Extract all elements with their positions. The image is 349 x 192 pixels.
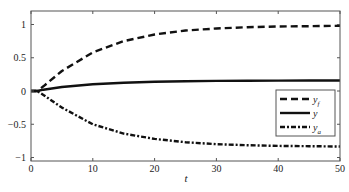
x-tick-label: 40 bbox=[273, 163, 283, 174]
x-tick-label: 20 bbox=[150, 163, 160, 174]
line-chart: 01020304050 −1−0.500.51 t yfyya bbox=[0, 0, 349, 192]
legend: yfyya bbox=[276, 90, 335, 136]
x-axis-label: t bbox=[184, 172, 188, 184]
y-tick-label: 0.5 bbox=[14, 52, 27, 63]
legend-label-y: y bbox=[312, 108, 318, 119]
y-tick-label: −1 bbox=[15, 152, 26, 163]
x-tick-label: 30 bbox=[211, 163, 221, 174]
y-tick-label: 1 bbox=[21, 19, 26, 30]
y-tick-label: 0 bbox=[21, 86, 26, 97]
x-tick-label: 10 bbox=[88, 163, 98, 174]
x-tick-label: 50 bbox=[335, 163, 345, 174]
series-line-y bbox=[31, 81, 340, 92]
y-tick-label: −0.5 bbox=[8, 119, 26, 130]
x-tick-label: 0 bbox=[29, 163, 34, 174]
